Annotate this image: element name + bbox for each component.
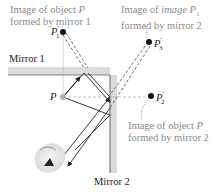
point-prime: ′ xyxy=(162,90,164,98)
mirror-2 xyxy=(110,75,117,173)
image-point-p1 xyxy=(60,29,66,35)
point-name: P xyxy=(50,91,56,102)
label-text: formed by mirror 2 xyxy=(121,20,202,31)
point-prime: ′ xyxy=(160,36,162,44)
real-rays xyxy=(60,73,110,166)
point-label-p1: P′1 xyxy=(51,24,59,40)
label-var: P xyxy=(197,120,203,131)
label-sub: 1 xyxy=(196,10,200,18)
point-label-p2: P′2 xyxy=(156,90,164,106)
point-label-p3: P′3 xyxy=(154,36,162,52)
object-point-p xyxy=(60,94,66,100)
label-text: Image of object xyxy=(10,4,79,15)
label-image-p2: Image of object P formed by mirror 2 xyxy=(128,120,209,144)
label-text: Image of xyxy=(121,4,161,15)
mirror-1 xyxy=(8,67,110,75)
point-sub: 3 xyxy=(159,44,163,52)
point-label-p: P xyxy=(50,91,56,102)
point-sub: 1 xyxy=(56,32,60,40)
image-point-p3 xyxy=(146,39,152,45)
two-mirror-diagram: Image of object P formed by mirror 1 Ima… xyxy=(0,0,213,192)
eye-icon xyxy=(29,137,71,178)
label-italic: image xyxy=(161,4,187,15)
label-var: P xyxy=(79,4,85,15)
label-text: Image of object xyxy=(128,120,197,131)
point-prime: ′ xyxy=(57,24,59,32)
label-image-p3: Image of image P1 formed by mirror 2 xyxy=(121,4,202,32)
point-sub: 2 xyxy=(161,98,165,106)
image-point-p2 xyxy=(148,93,154,99)
label-text: formed by mirror 2 xyxy=(128,132,209,143)
label-mirror-1: Mirror 1 xyxy=(9,53,45,65)
label-var: P xyxy=(187,4,196,15)
label-mirror-2: Mirror 2 xyxy=(94,176,130,188)
